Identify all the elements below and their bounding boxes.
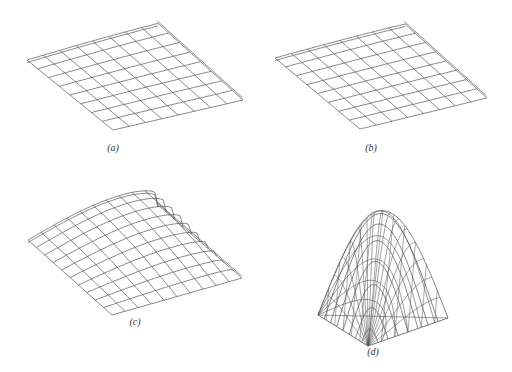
surface-plot-c bbox=[28, 191, 242, 315]
grid-line-u bbox=[67, 218, 151, 304]
grid-line-v bbox=[92, 81, 222, 113]
grid-line-u bbox=[405, 24, 487, 98]
grid-line-u bbox=[125, 32, 210, 108]
base-edge bbox=[318, 315, 448, 318]
grid-line-v bbox=[78, 242, 208, 286]
grid-line-u bbox=[356, 36, 439, 110]
figure bbox=[0, 0, 512, 372]
caption-a: (a) bbox=[107, 142, 119, 153]
grid-line-v bbox=[104, 270, 234, 308]
drop-line bbox=[368, 211, 383, 346]
caption-b: (b) bbox=[365, 142, 377, 153]
grid-line-v bbox=[349, 89, 476, 120]
grid-line-v bbox=[113, 100, 243, 130]
meridian-line bbox=[367, 218, 368, 346]
grid-line-v bbox=[27, 23, 158, 60]
grid-line-u bbox=[142, 28, 227, 104]
grid-line-u bbox=[119, 196, 203, 289]
drop-line bbox=[408, 242, 416, 332]
grid-line-v bbox=[360, 98, 487, 129]
meridian-line bbox=[368, 297, 440, 346]
edge-line bbox=[27, 26, 158, 63]
grid-line-u bbox=[389, 28, 471, 102]
meridian-line bbox=[368, 277, 432, 346]
grid-line-v bbox=[62, 223, 192, 270]
grid-line-v bbox=[275, 24, 405, 58]
surface-plot-b bbox=[275, 22, 487, 130]
grid-line-u bbox=[80, 211, 164, 300]
grid-line-u bbox=[93, 205, 177, 296]
grid-line-u bbox=[106, 200, 190, 293]
grid-line-u bbox=[158, 205, 242, 278]
grid-line-u bbox=[158, 23, 243, 100]
grid-line-v bbox=[339, 80, 467, 112]
grid-line-v bbox=[102, 90, 232, 121]
caption-d: (d) bbox=[367, 346, 379, 357]
grid-line-u bbox=[109, 36, 194, 111]
grid-line-v bbox=[95, 260, 225, 300]
surface-plot-a bbox=[27, 21, 243, 130]
surface-plot-d bbox=[318, 211, 448, 347]
grid-line-v bbox=[53, 215, 183, 263]
grid-line-v bbox=[45, 206, 175, 255]
grid-line-u bbox=[373, 32, 456, 106]
caption-c: (c) bbox=[129, 316, 140, 327]
